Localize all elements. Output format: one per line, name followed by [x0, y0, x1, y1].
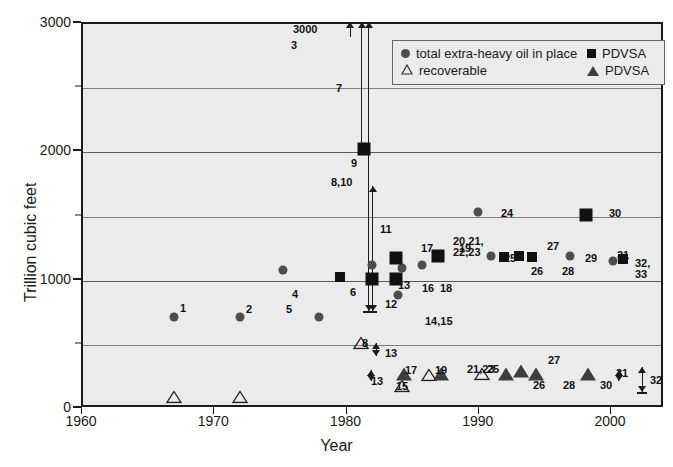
point-label: 3	[291, 40, 297, 52]
point-label: 19	[435, 365, 447, 377]
y-tick-mark	[73, 278, 81, 280]
y-tick-mark-minor	[75, 342, 81, 343]
y-tick-mark	[73, 21, 81, 23]
x-tick-label: 1970	[198, 413, 229, 429]
gridline-minor	[83, 88, 661, 89]
point-label: 5	[286, 304, 292, 316]
marker-circle	[368, 261, 377, 270]
marker-square	[366, 272, 379, 285]
x-tick-label: 1990	[462, 413, 493, 429]
point-label: 13	[371, 376, 383, 388]
marker-square	[335, 272, 345, 282]
x-tick-mark	[478, 407, 479, 414]
point-label: 33	[635, 269, 647, 281]
legend-row: total extra-heavy oil in place PDVSA	[401, 45, 656, 62]
point-label: 31	[616, 368, 628, 380]
marker-square	[358, 143, 371, 156]
arrowhead-up	[346, 22, 354, 28]
legend-entry-pdvsa-square: PDVSA	[587, 46, 646, 61]
range-cap	[367, 311, 377, 313]
annotation-line-7	[361, 22, 362, 149]
arrowhead-down	[372, 350, 380, 356]
circle-marker-icon	[401, 49, 410, 58]
point-label: 29	[585, 253, 597, 265]
marker-triangle-open	[232, 391, 248, 404]
point-label: 30	[609, 208, 621, 220]
triangle-filled-marker-icon	[587, 66, 599, 76]
point-label: 28	[563, 380, 575, 392]
point-label: 2	[246, 304, 252, 316]
marker-square	[527, 252, 537, 262]
legend-row: recoverable PDVSA	[401, 62, 656, 79]
marker-circle	[315, 313, 324, 322]
y-tick-label: 3000	[40, 14, 71, 30]
legend-label: PDVSA	[605, 63, 649, 78]
clipped-caption	[0, 460, 673, 467]
arrowhead-up	[369, 186, 377, 192]
marker-square	[432, 250, 445, 263]
marker-circle	[279, 266, 288, 275]
x-tick-mark	[213, 407, 214, 414]
marker-circle	[608, 256, 617, 265]
legend-label: recoverable	[419, 63, 487, 78]
point-label: 6	[350, 287, 356, 299]
marker-circle	[487, 252, 496, 261]
marker-circle	[169, 313, 178, 322]
y-tick-label: 2000	[40, 142, 71, 158]
marker-circle	[566, 251, 575, 260]
x-tick-mark	[610, 407, 611, 414]
y-tick-mark	[73, 149, 81, 151]
y-tick-mark-minor	[75, 214, 81, 215]
chart-legend: total extra-heavy oil in place PDVSA rec…	[392, 40, 665, 85]
point-label: 25	[487, 364, 499, 376]
point-label: 15	[396, 381, 408, 393]
legend-entry-total-oil: total extra-heavy oil in place	[401, 46, 587, 61]
point-label: 28	[562, 266, 574, 278]
point-label: 12	[385, 299, 397, 311]
marker-triangle-filled	[580, 368, 596, 381]
point-label: 22,23	[453, 247, 481, 259]
marker-circle	[235, 313, 244, 322]
legend-entry-recoverable: recoverable	[401, 63, 587, 78]
x-tick-mark	[81, 407, 82, 414]
marker-triangle-filled	[498, 368, 514, 381]
marker-square	[580, 208, 593, 221]
annotation-line-11	[372, 186, 373, 310]
point-label: 27	[548, 355, 560, 367]
point-label: 26	[531, 266, 543, 278]
point-label: 7	[336, 83, 342, 95]
square-marker-icon	[587, 49, 596, 58]
range-cap	[637, 392, 647, 394]
point-label: 8	[362, 338, 368, 350]
x-axis-title: Year	[0, 437, 673, 455]
triangle-open-marker-icon	[401, 63, 413, 78]
marker-triangle-open	[166, 391, 182, 404]
point-label: 30	[600, 380, 612, 392]
x-tick-mark	[346, 407, 347, 414]
x-tick-label: 1980	[330, 413, 361, 429]
legend-label: PDVSA	[602, 46, 646, 61]
point-label: 24	[501, 208, 513, 220]
point-label: 13	[385, 348, 397, 360]
point-label: 4	[292, 289, 298, 301]
y-tick-label: 1000	[40, 271, 71, 287]
chart-root: Trillion cubic feet 01000200030001960197…	[0, 0, 673, 467]
point-label: 25	[504, 253, 516, 265]
point-label: 26	[533, 380, 545, 392]
marker-square	[389, 252, 402, 265]
point-label: 17	[405, 365, 417, 377]
point-label: 18	[440, 283, 452, 295]
y-tick-mark	[73, 406, 81, 408]
point-label: 27	[547, 241, 559, 253]
point-label: 13	[398, 280, 410, 292]
arrowhead-up	[365, 22, 373, 28]
marker-circle	[473, 207, 482, 216]
legend-entry-pdvsa-triangle: PDVSA	[587, 63, 649, 78]
y-tick-mark-minor	[75, 86, 81, 87]
point-label: 31	[617, 250, 629, 262]
arrowhead-up	[638, 367, 646, 373]
point-label: 9	[351, 158, 357, 170]
gridline-major	[83, 152, 661, 153]
point-label: 14,15	[425, 316, 453, 328]
point-label: 3000	[293, 24, 317, 36]
